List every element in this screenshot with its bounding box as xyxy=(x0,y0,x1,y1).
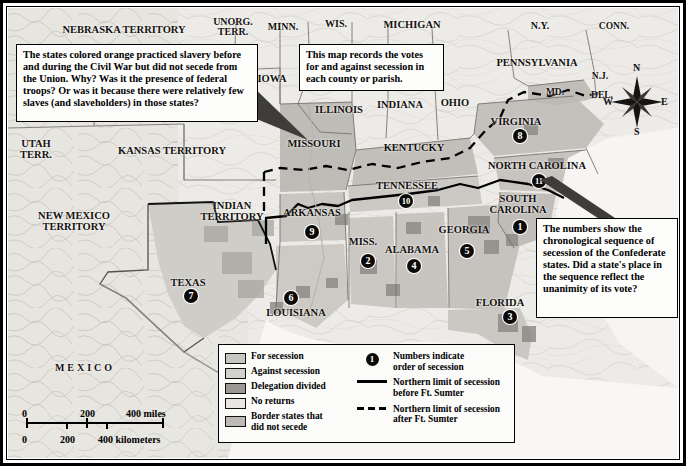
secession-map: NEBRASKA TERRITORYUNORG. TERR.MINN.WIS.M… xyxy=(0,0,686,466)
compass-north-label: N xyxy=(633,62,640,73)
scale-line xyxy=(26,422,162,424)
scale-tick-km400 xyxy=(106,422,108,429)
legend-label-for-secession: For secession xyxy=(251,351,304,362)
legend-item-delegation-divided: Delegation divided xyxy=(225,381,347,394)
legend-label-before-sumter: Northern limit of secession before Ft. S… xyxy=(393,377,500,398)
legend-label-no-returns: No returns xyxy=(251,396,294,407)
legend-swatch-border-states xyxy=(225,416,246,427)
scale-km-row: 0 200 400 kilometers xyxy=(22,434,186,446)
callout-numbers-note: The numbers show the chronological seque… xyxy=(536,218,678,318)
legend-item-against-secession: Against secession xyxy=(225,366,347,379)
legend-number-badge-icon: 1 xyxy=(351,350,393,366)
callout-tail-orange-states xyxy=(250,84,360,154)
scale-km-400: 400 kilometers xyxy=(98,434,161,445)
legend-swatch-against-secession xyxy=(225,368,246,379)
scale-tick-0 xyxy=(26,418,28,428)
callout-text: The states colored orange practiced slav… xyxy=(23,49,244,108)
legend-key-before-sumter: Northern limit of secession before Ft. S… xyxy=(351,377,514,398)
callout-orange-states-note: The states colored orange practiced slav… xyxy=(16,44,258,122)
legend-label-border-states: Border states that did not secede xyxy=(251,411,323,432)
legend-swatch-delegation-divided xyxy=(225,383,246,394)
scale-tick-mi200 xyxy=(86,418,88,428)
legend-label-delegation-divided: Delegation divided xyxy=(251,381,326,392)
solid-line-icon xyxy=(351,377,393,383)
compass-east-label: E xyxy=(661,96,668,107)
map-legend: For secession Against secession Delegati… xyxy=(218,344,515,443)
legend-label-order-of-secession: Numbers indicate order of secession xyxy=(393,350,464,372)
legend-label-against-secession: Against secession xyxy=(251,366,320,377)
legend-key-after-sumter: Northern limit of secession after Ft. Su… xyxy=(351,404,514,425)
legend-item-no-returns: No returns xyxy=(225,396,347,409)
map-scale-bar: 0 200 400 miles 0 200 400 kilometers xyxy=(22,408,186,452)
legend-label-after-sumter: Northern limit of secession after Ft. Su… xyxy=(393,404,500,425)
legend-key-column: 1 Numbers indicate order of secession No… xyxy=(347,345,514,442)
legend-item-for-secession: For secession xyxy=(225,351,347,364)
scale-tick-mi400 xyxy=(162,418,164,428)
legend-swatch-column: For secession Against secession Delegati… xyxy=(219,345,347,442)
scale-tick-km200 xyxy=(66,422,68,429)
scale-km-0: 0 xyxy=(22,434,27,445)
callout-text: The numbers show the chronological seque… xyxy=(543,223,666,294)
compass-rose: N E S W xyxy=(601,62,673,140)
legend-item-border-states: Border states that did not secede xyxy=(225,411,347,432)
callout-text: This map records the votes for and again… xyxy=(306,49,424,84)
legend-swatch-for-secession xyxy=(225,353,246,364)
callout-votes-note: This map records the votes for and again… xyxy=(299,44,444,91)
legend-key-order-of-secession: 1 Numbers indicate order of secession xyxy=(351,350,514,372)
scale-km-200: 200 xyxy=(60,434,75,445)
legend-swatch-no-returns xyxy=(225,398,246,409)
scale-miles-400: 400 miles xyxy=(126,408,166,419)
compass-west-label: W xyxy=(603,96,613,107)
compass-south-label: S xyxy=(634,126,640,137)
dashed-line-icon xyxy=(351,404,393,410)
